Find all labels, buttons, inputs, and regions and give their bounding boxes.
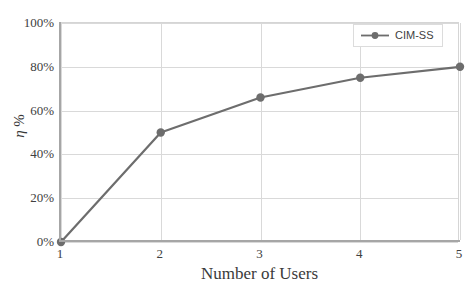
y-axis-tick-label: 100% xyxy=(6,16,54,29)
y-axis-title-unit xyxy=(11,127,27,131)
x-axis-tick-labels: 12345 xyxy=(60,246,459,266)
legend-marker-icon xyxy=(360,30,390,41)
x-axis-line xyxy=(60,240,460,242)
y-axis-line xyxy=(59,22,61,242)
data-point-marker xyxy=(157,128,165,136)
legend-label-cim-ss: CIM-SS xyxy=(395,30,434,41)
gridline-horizontal xyxy=(61,242,458,243)
y-axis-title: η % xyxy=(11,96,27,156)
plot-area xyxy=(60,22,459,241)
x-axis-tick-label: 4 xyxy=(339,246,379,261)
y-axis-tick-label: 20% xyxy=(6,191,54,204)
data-point-marker xyxy=(456,63,464,71)
x-axis-tick-label: 1 xyxy=(40,246,80,261)
series-markers-cim-ss xyxy=(57,63,464,247)
x-axis-tick-label: 5 xyxy=(439,246,469,261)
legend: CIM-SS xyxy=(353,24,443,47)
x-axis-title: Number of Users xyxy=(60,264,459,284)
y-axis-tick-label: 80% xyxy=(6,60,54,73)
x-axis-tick-label: 3 xyxy=(240,246,280,261)
series-plot xyxy=(61,23,460,242)
y-axis-title-percent: % xyxy=(11,114,27,127)
data-point-marker xyxy=(256,93,264,101)
y-axis-title-symbol: η xyxy=(11,130,27,137)
gridline-vertical xyxy=(460,23,461,240)
line-chart: 0%20%40%60%80%100% 12345 Number of Users… xyxy=(0,0,469,294)
x-axis-tick-label: 2 xyxy=(140,246,180,261)
series-line-cim-ss xyxy=(61,67,460,242)
data-point-marker xyxy=(356,74,364,82)
